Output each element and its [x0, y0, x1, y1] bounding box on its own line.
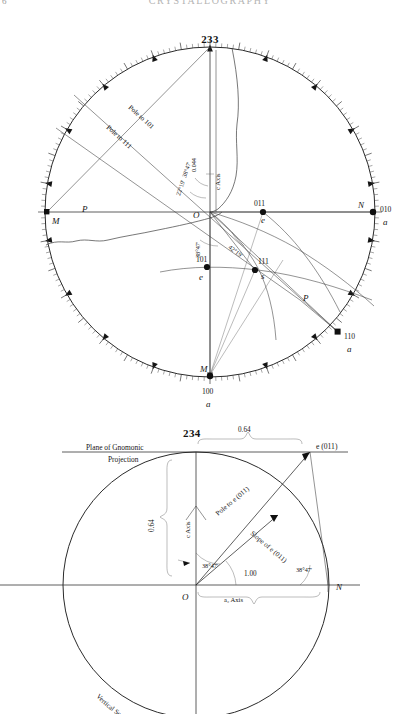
degree-marker	[45, 181, 52, 187]
graduation-tick	[233, 375, 234, 379]
graduation-tick	[282, 360, 284, 364]
degree-marker	[368, 237, 375, 243]
graduation-tick	[120, 352, 122, 355]
graduation-tick	[88, 95, 91, 98]
label-101-letter: e	[199, 272, 203, 282]
origin-label-234: O	[182, 592, 189, 602]
graduation-tick	[124, 63, 128, 69]
ray-m-to-111	[210, 270, 255, 375]
graduation-tick	[297, 69, 299, 72]
graduation-tick	[239, 374, 240, 381]
graduation-tick	[233, 45, 234, 49]
graduation-tick	[365, 268, 372, 270]
graduation-tick	[111, 75, 113, 78]
angle-arc-inner2-234	[226, 561, 236, 585]
graduation-tick	[255, 50, 256, 54]
graduation-tick	[312, 342, 314, 345]
graduation-tick	[124, 355, 128, 361]
graduation-tick	[340, 108, 343, 110]
ray-m-to-s	[210, 260, 283, 375]
graduation-tick	[343, 113, 346, 115]
graduation-tick	[250, 48, 251, 52]
graduation-tick	[333, 99, 336, 102]
graduation-tick	[367, 160, 371, 161]
graduation-tick	[78, 101, 83, 106]
label-P-left: P	[81, 204, 88, 214]
graduation-tick	[373, 235, 377, 236]
graduation-tick	[369, 257, 373, 258]
label-011-index: 011	[254, 199, 265, 208]
graduation-tick	[363, 274, 367, 276]
graduation-tick	[175, 47, 176, 51]
figure-233-diagram: O c Axis Pole to 101 Pole to 111 38°47' …	[0, 0, 420, 420]
graduation-tick	[93, 90, 96, 93]
graduation-tick	[53, 149, 57, 151]
graduation-tick	[131, 358, 133, 362]
label-100-letter: a	[206, 399, 211, 409]
graduation-tick	[358, 284, 362, 286]
graduation-tick	[67, 299, 70, 301]
graduation-tick	[186, 45, 187, 49]
graduation-tick	[180, 374, 181, 381]
graduation-tick	[116, 349, 118, 352]
graduation-tick	[46, 252, 50, 253]
top-distance-064: 0.64	[238, 426, 251, 434]
arc-through-101-111	[160, 267, 372, 300]
c-axis-label-234: c Axis	[184, 521, 191, 538]
brace-left-064	[160, 460, 172, 576]
label-M-bottom: M	[199, 364, 208, 374]
graduation-tick	[255, 371, 256, 375]
angle-arc-38-47-lower	[200, 240, 218, 246]
point-111	[252, 267, 258, 273]
label-M-left: M	[51, 216, 60, 226]
graduation-tick	[367, 263, 371, 264]
graduation-tick	[250, 372, 251, 376]
graduation-tick	[369, 165, 373, 166]
graduation-tick	[347, 118, 350, 120]
horizontal-distance-100: 1.00	[244, 570, 257, 578]
graduation-tick	[141, 58, 143, 62]
graduation-tick	[293, 355, 297, 361]
distance-0044-label: 0.044	[190, 158, 197, 172]
pole-line	[196, 515, 278, 585]
graduation-tick	[48, 153, 55, 155]
label-N-234: N	[335, 582, 343, 592]
graduation-tick	[58, 138, 62, 140]
graduation-tick	[120, 69, 122, 72]
graduation-tick	[325, 331, 328, 334]
figure-234-diagram: Plane of Gnomonic Projection 0.64 e (011…	[0, 420, 420, 714]
graduation-tick	[73, 309, 76, 311]
ray-to-110	[210, 212, 338, 332]
graduation-tick	[325, 90, 328, 93]
graduation-tick	[350, 299, 353, 301]
graduation-tick	[48, 257, 52, 258]
degree-marker	[311, 333, 318, 340]
label-P-right: P	[302, 293, 309, 303]
angle-arc-38-47-upper	[195, 178, 208, 186]
vertical-distance-064: 0.64	[148, 519, 156, 532]
graduation-tick	[307, 345, 309, 348]
degree-marker	[45, 237, 52, 243]
graduation-tick	[97, 86, 100, 89]
graduation-tick	[363, 149, 367, 151]
graduation-tick	[73, 113, 76, 115]
graduation-tick	[53, 274, 57, 276]
graduation-tick	[131, 63, 133, 67]
brace-bottom-100	[198, 592, 320, 604]
graduation-tick	[48, 268, 55, 270]
graduation-tick	[180, 43, 181, 50]
graduation-tick	[106, 342, 108, 345]
graduation-tick	[329, 327, 332, 330]
angle-inner-234: 38°47'	[202, 562, 218, 569]
graduation-tick	[84, 99, 87, 102]
graduation-tick	[56, 143, 60, 145]
graduation-tick	[272, 365, 274, 369]
graduation-tick	[370, 171, 374, 172]
angle-arc-22-19	[190, 192, 206, 198]
graduation-tick	[302, 349, 304, 352]
graduation-tick	[49, 160, 53, 161]
graduation-tick	[136, 60, 138, 64]
graduation-tick	[356, 133, 360, 135]
graduation-tick	[272, 55, 274, 59]
degree-marker	[102, 333, 109, 340]
